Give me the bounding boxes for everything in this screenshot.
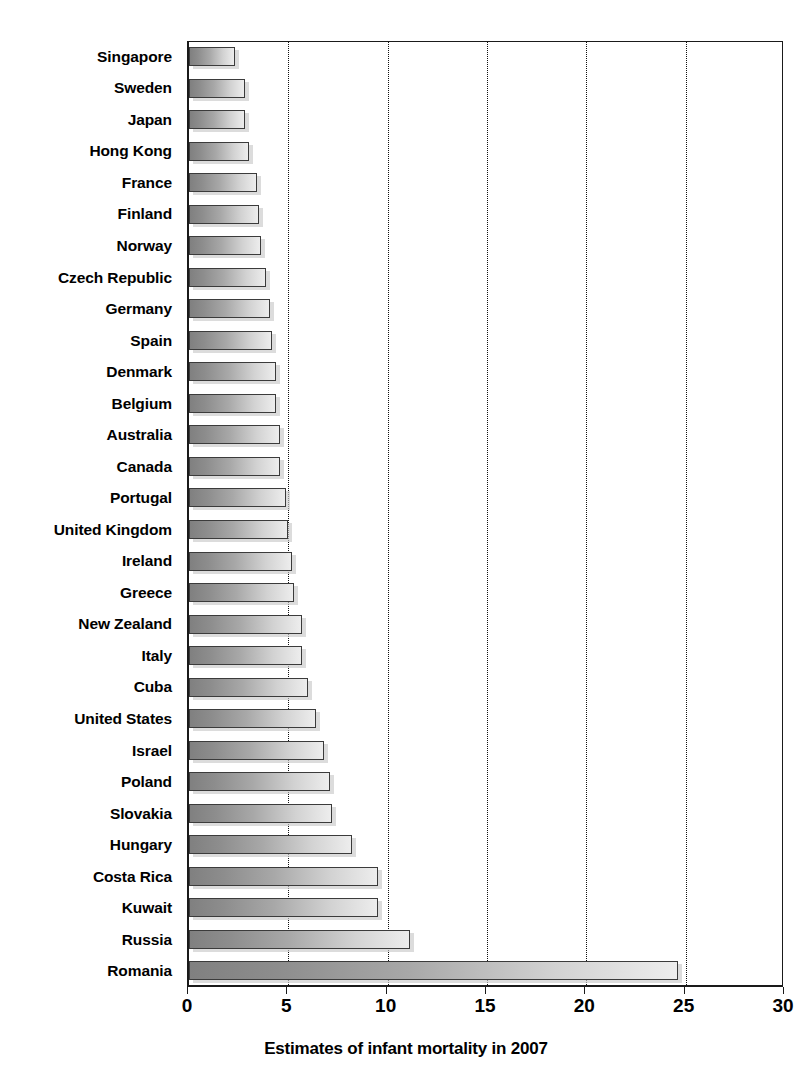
bar xyxy=(189,552,292,571)
bar xyxy=(189,425,280,444)
bar-row xyxy=(189,200,785,231)
bar-row xyxy=(189,736,785,767)
y-axis-label: Denmark xyxy=(0,363,172,381)
bar xyxy=(189,362,276,381)
bar-row xyxy=(189,357,785,388)
y-axis-label: Slovakia xyxy=(0,805,172,823)
bar-row xyxy=(189,893,785,924)
bar xyxy=(189,488,286,507)
bar xyxy=(189,709,316,728)
y-axis-label: Hungary xyxy=(0,836,172,854)
y-axis-label: Kuwait xyxy=(0,899,172,917)
bar-row xyxy=(189,956,785,987)
y-axis-label: Portugal xyxy=(0,489,172,507)
bar-row xyxy=(189,515,785,546)
y-axis-label: Cuba xyxy=(0,678,172,696)
y-axis-label: Israel xyxy=(0,742,172,760)
bar xyxy=(189,741,324,760)
infant-mortality-bar-chart: SingaporeSwedenJapanHong KongFranceFinla… xyxy=(0,0,812,1068)
x-tick-mark-10 xyxy=(386,987,387,994)
x-tick-label-30: 30 xyxy=(772,995,793,1017)
bar-row xyxy=(189,547,785,578)
bar xyxy=(189,173,257,192)
bar xyxy=(189,142,249,161)
bar-row xyxy=(189,168,785,199)
x-tick-mark-20 xyxy=(584,987,585,994)
x-tick-label-25: 25 xyxy=(673,995,694,1017)
bar xyxy=(189,961,678,980)
y-axis-label: Australia xyxy=(0,426,172,444)
bar-row xyxy=(189,231,785,262)
bar-row xyxy=(189,610,785,641)
x-axis-title: Estimates of infant mortality in 2007 xyxy=(0,1039,812,1059)
bar xyxy=(189,678,308,697)
bar xyxy=(189,394,276,413)
x-axis-ticks: 051015202530 xyxy=(187,987,783,997)
bar-row xyxy=(189,294,785,325)
y-axis-label: Russia xyxy=(0,931,172,949)
y-axis-label: Italy xyxy=(0,647,172,665)
bar xyxy=(189,79,245,98)
top-margin-artifact xyxy=(0,0,812,6)
bar-row xyxy=(189,578,785,609)
y-axis-label: Finland xyxy=(0,205,172,223)
bar-row xyxy=(189,704,785,735)
bar-row xyxy=(189,137,785,168)
bar-row xyxy=(189,799,785,830)
y-axis-label: Hong Kong xyxy=(0,142,172,160)
y-axis-label: Czech Republic xyxy=(0,269,172,287)
bar-row xyxy=(189,42,785,73)
y-axis-label: Ireland xyxy=(0,552,172,570)
y-axis-label: New Zealand xyxy=(0,615,172,633)
bar-row xyxy=(189,641,785,672)
bar xyxy=(189,457,280,476)
x-tick-mark-25 xyxy=(684,987,685,994)
x-tick-mark-0 xyxy=(187,987,188,994)
y-axis-label: United Kingdom xyxy=(0,521,172,539)
bar xyxy=(189,646,302,665)
bar-row xyxy=(189,483,785,514)
y-axis-label: Canada xyxy=(0,458,172,476)
bar xyxy=(189,331,272,350)
bar-row xyxy=(189,263,785,294)
bar-row xyxy=(189,862,785,893)
bar xyxy=(189,299,270,318)
x-tick-mark-5 xyxy=(286,987,287,994)
bar xyxy=(189,583,294,602)
x-tick-label-20: 20 xyxy=(574,995,595,1017)
plot-area xyxy=(187,41,783,987)
x-tick-mark-15 xyxy=(485,987,486,994)
x-tick-label-5: 5 xyxy=(281,995,292,1017)
y-axis-label: Costa Rica xyxy=(0,868,172,886)
bar xyxy=(189,110,245,129)
x-tick-mark-30 xyxy=(783,987,784,994)
bar xyxy=(189,772,330,791)
bar-row xyxy=(189,830,785,861)
bar xyxy=(189,835,352,854)
bar xyxy=(189,268,266,287)
bar-row xyxy=(189,452,785,483)
x-tick-label-0: 0 xyxy=(182,995,193,1017)
x-tick-label-10: 10 xyxy=(375,995,396,1017)
bar xyxy=(189,236,261,255)
bar xyxy=(189,47,235,66)
y-axis-label: United States xyxy=(0,710,172,728)
bar-row xyxy=(189,673,785,704)
y-axis-label: Poland xyxy=(0,773,172,791)
bar xyxy=(189,930,410,949)
y-axis-label: Singapore xyxy=(0,48,172,66)
y-axis-label: Sweden xyxy=(0,79,172,97)
y-axis-label: Spain xyxy=(0,332,172,350)
bar-row xyxy=(189,105,785,136)
y-axis-label: Japan xyxy=(0,111,172,129)
bar xyxy=(189,615,302,634)
y-axis-label: Greece xyxy=(0,584,172,602)
bar xyxy=(189,804,332,823)
bar-row xyxy=(189,767,785,798)
y-axis-label: France xyxy=(0,174,172,192)
bar-row xyxy=(189,389,785,420)
bar xyxy=(189,520,288,539)
bar-row xyxy=(189,326,785,357)
bar-row xyxy=(189,74,785,105)
x-tick-label-15: 15 xyxy=(474,995,495,1017)
